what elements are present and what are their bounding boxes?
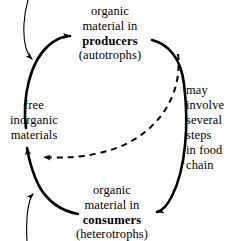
free-inorganic-line-1: free <box>0 98 68 113</box>
producers-line-1: organic <box>55 4 165 19</box>
free-inorganic-line-3: materials <box>0 128 68 143</box>
food-chain-line-1: may <box>186 83 230 98</box>
food-chain-line-5: in food <box>186 143 230 158</box>
consumers-line-3: consumers <box>52 213 172 228</box>
producers-line-3: producers <box>55 34 165 49</box>
consumers-line-2: material in <box>52 198 172 213</box>
food-chain-line-4: steps <box>186 128 230 143</box>
producers-line-4: (autotrophs) <box>55 48 165 63</box>
arrow-external-input-bottom <box>27 194 33 241</box>
arrow-external-input-top <box>24 0 32 59</box>
food-chain-line-6: chain <box>186 158 230 173</box>
nutrient-cycle-diagram: organic material in producers (autotroph… <box>0 0 230 241</box>
label-free-inorganic-materials: free inorganic materials <box>0 98 68 142</box>
free-inorganic-line-2: inorganic <box>0 113 68 128</box>
consumers-line-1: organic <box>52 183 172 198</box>
producers-line-2: material in <box>55 19 165 34</box>
food-chain-line-2: involve <box>186 98 230 113</box>
label-food-chain-note: may involve several steps in food chain <box>186 83 230 173</box>
label-producers: organic material in producers (autotroph… <box>55 4 165 63</box>
food-chain-line-3: several <box>186 113 230 128</box>
consumers-line-4: (heterotrophs) <box>52 227 172 241</box>
label-consumers: organic material in consumers (heterotro… <box>52 183 172 241</box>
